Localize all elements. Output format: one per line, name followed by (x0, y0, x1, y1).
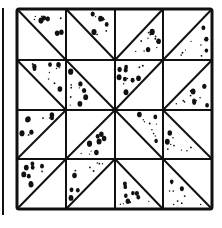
speckle-dot (176, 103, 178, 105)
cell-diagonal (115, 159, 163, 209)
speckle-dot (59, 67, 60, 68)
speckle-dot (48, 78, 50, 80)
speckle-dot (70, 84, 72, 86)
speckle-dot (181, 202, 183, 204)
speckle-dot (137, 112, 142, 118)
speckle-dot (49, 72, 50, 73)
speckle-dot (72, 173, 77, 179)
speckle-dot (41, 16, 43, 18)
speckle-dot (56, 68, 58, 70)
speckle-dot (41, 171, 43, 173)
speckle-dot (192, 98, 196, 103)
speckle-dot (168, 130, 173, 135)
speckle-dot (105, 22, 109, 27)
speckle-dot (123, 181, 127, 186)
speckle-dot (79, 87, 80, 88)
speckle-dot (184, 195, 186, 197)
speckle-dot (99, 133, 101, 135)
speckle-dot (138, 66, 140, 68)
speckle-dot (91, 12, 95, 17)
speckle-dot (148, 201, 149, 202)
speckle-dot (148, 32, 150, 34)
speckle-dot (140, 40, 142, 42)
speckle-dot (123, 83, 125, 85)
cell-diagonal (66, 159, 115, 209)
speckle-dot (124, 89, 129, 95)
speckle-dot (199, 97, 201, 99)
speckle-dot (184, 101, 186, 103)
speckle-dot (146, 47, 150, 52)
speckle-dot (117, 74, 122, 80)
speckle-dot (205, 103, 209, 107)
speckle-dot (33, 66, 37, 71)
speckle-dot (201, 55, 203, 57)
speckle-dot (60, 17, 62, 19)
speckle-dot (55, 32, 56, 33)
speckle-dot (21, 171, 26, 177)
speckle-dot (96, 34, 98, 36)
speckle-dot (97, 162, 99, 164)
speckle-dot (24, 165, 29, 171)
speckle-dot (48, 62, 52, 67)
speckle-dot (182, 100, 184, 102)
speckle-dot (200, 44, 202, 46)
speckle-dot (59, 30, 63, 35)
speckle-dot (80, 153, 81, 154)
speckle-dot (28, 134, 30, 136)
speckle-dot (83, 94, 88, 100)
speckle-dot (149, 34, 151, 36)
speckle-dot (78, 81, 82, 86)
speckle-dot (155, 135, 156, 136)
speckle-dot (149, 123, 151, 125)
speckle-dot (96, 134, 100, 139)
speckle-dot (144, 121, 145, 122)
speckle-dot (42, 117, 44, 119)
cell-diagonal (66, 60, 115, 110)
speckle-dot (89, 166, 91, 168)
speckle-dot (89, 154, 90, 155)
speckle-dot (32, 63, 34, 65)
speckle-dot (70, 87, 72, 89)
speckle-dot (200, 204, 202, 206)
speckle-dot (153, 133, 155, 135)
speckle-dot (143, 119, 144, 120)
speckle-dot (93, 170, 95, 172)
cell-diagonal (163, 9, 212, 60)
speckle-dot (29, 181, 33, 186)
speckle-dot (142, 65, 144, 67)
speckle-dot (95, 16, 96, 17)
speckle-dot (123, 77, 127, 82)
speckle-dot (29, 130, 33, 135)
speckle-dot (190, 90, 192, 92)
speckle-dot (26, 116, 31, 122)
speckle-dot (182, 52, 184, 54)
speckle-dot (135, 51, 136, 52)
speckle-dot (131, 78, 135, 83)
speckle-dot (173, 145, 175, 147)
speckle-dot (74, 170, 76, 172)
speckle-dot (91, 151, 92, 152)
speckle-dot (117, 67, 121, 72)
speckle-dot (143, 50, 145, 52)
speckle-dot (154, 38, 156, 40)
cell-diagonal (163, 159, 212, 209)
speckle-dot (202, 84, 206, 89)
speckle-dot (31, 165, 35, 170)
speckle-dot (102, 163, 104, 165)
speckle-dot (56, 62, 61, 68)
speckle-dot (102, 136, 107, 141)
speckle-dot (124, 65, 128, 70)
speckle-dot (204, 37, 208, 42)
speckle-dot (38, 18, 43, 24)
speckle-dot (101, 17, 105, 21)
speckle-dot (124, 194, 128, 198)
speckle-dot (97, 143, 98, 144)
speckle-dot (70, 187, 74, 192)
speckle-dot (78, 101, 83, 107)
speckle-dot (155, 36, 157, 38)
speckle-dot (105, 30, 107, 32)
speckle-dot (27, 174, 31, 179)
speckle-dot (50, 115, 54, 120)
speckle-dot (205, 48, 209, 52)
speckle-dot (177, 200, 179, 202)
